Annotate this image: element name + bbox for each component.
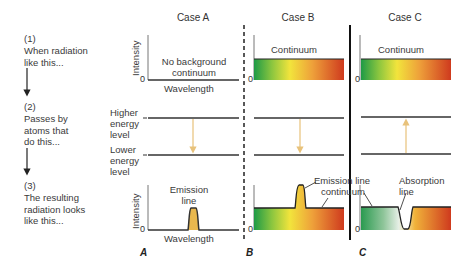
continuum-label-bottom: continuum xyxy=(321,186,365,197)
emission-line-label-a: Emission line xyxy=(164,184,214,206)
panel-letter-b: B xyxy=(246,247,253,258)
panel-letter-c: C xyxy=(359,247,366,258)
energy-level-ticks xyxy=(0,0,475,271)
emission-line-label-b: Emission line xyxy=(314,175,370,186)
panel-letter-a: A xyxy=(140,247,147,258)
absorption-line-label: Absorption line xyxy=(399,175,444,197)
